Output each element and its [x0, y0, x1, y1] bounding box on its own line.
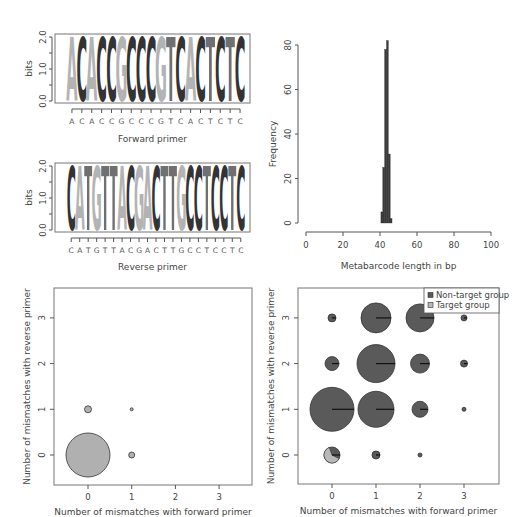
- sequence-base-label: C: [129, 117, 134, 126]
- x-axis-title: Metabarcode length in bp: [341, 261, 457, 271]
- sequence-base-label: G: [136, 246, 142, 255]
- sequence-base-label: T: [85, 246, 91, 255]
- bubble: [85, 406, 92, 413]
- y-axis-title: Number of mismatches with reverse primer: [22, 288, 32, 485]
- sequence-base-label: C: [178, 117, 183, 126]
- legend: Non-target groupTarget group: [424, 288, 509, 313]
- logo-letter-C: C: [235, 20, 246, 122]
- y-tick-label: 1: [37, 407, 47, 412]
- sequence-base-label: G: [118, 117, 124, 126]
- x-tick-label: 2: [417, 491, 422, 501]
- sequence-base-label: C: [153, 246, 158, 255]
- x-axis-title: Reverse primer: [118, 262, 187, 272]
- sequence-base-label: C: [109, 117, 114, 126]
- y-axis-title: Number of mismatches with reverse primer: [266, 287, 276, 484]
- pie-marker: [462, 407, 466, 411]
- logo-letter-C: C: [236, 149, 245, 251]
- sequence-base-label: C: [238, 246, 243, 255]
- sequence-base-label: T: [207, 117, 213, 126]
- pie-marker: [328, 314, 336, 322]
- bubble: [130, 408, 133, 411]
- pie-marker: [418, 453, 422, 457]
- figure: 0.01.02.0bitsAACCAACCCCGGCCCCCCGGTCCAACC…: [0, 0, 519, 517]
- y-axis-title: Frequency: [268, 120, 278, 167]
- y-tick-label: 0: [281, 452, 291, 457]
- y-tick-label: 2.0: [38, 159, 48, 173]
- logo-letter-C: C: [195, 20, 206, 122]
- x-tick-label: 3: [461, 491, 466, 501]
- sequence-base-label: G: [179, 246, 185, 255]
- histogram-bar: [388, 154, 390, 223]
- pie-marker: [461, 360, 468, 367]
- y-tick-label: 0: [37, 452, 47, 457]
- y-axis-title: bits: [24, 189, 34, 206]
- sequence-base-label: G: [158, 117, 164, 126]
- sequence-base-label: C: [221, 246, 226, 255]
- sequence-base-label: C: [128, 246, 133, 255]
- sequence-base-label: T: [227, 117, 233, 126]
- pie-marker: [325, 357, 339, 371]
- y-tick-label: 2: [37, 361, 47, 366]
- histogram-bar: [385, 49, 387, 223]
- sequence-base-label: C: [213, 246, 218, 255]
- legend-label: Non-target group: [436, 290, 509, 300]
- x-tick-label: 100: [483, 240, 499, 250]
- sequence-base-label: A: [120, 246, 126, 255]
- logo-letter-C: C: [219, 149, 228, 251]
- x-axis-title: Number of mismatches with forward primer: [300, 506, 498, 516]
- x-tick-label: 80: [449, 240, 460, 250]
- sequence-base-label: T: [170, 246, 176, 255]
- x-tick-label: 0: [329, 491, 334, 501]
- x-tick-label: 1: [129, 492, 134, 502]
- histogram-bar: [390, 219, 392, 223]
- sequence-base-label: C: [148, 117, 153, 126]
- sequence-base-label: C: [196, 246, 201, 255]
- pie-marker: [324, 447, 340, 463]
- forward-primer-logo: 0.01.02.0bitsAACCAACCCCGGCCCCCCGGTCCAACC…: [24, 20, 250, 144]
- x-tick-label: 1: [373, 491, 378, 501]
- sequence-base-label: C: [218, 117, 223, 126]
- x-tick-label: 60: [412, 240, 423, 250]
- mismatch-bubble-plot-target: 01230123Number of mismatches with forwar…: [22, 288, 252, 517]
- y-tick-label: 1: [281, 407, 291, 412]
- y-tick-label: 0: [283, 220, 293, 225]
- x-tick-label: 3: [216, 492, 221, 502]
- sequence-base-label: C: [237, 117, 242, 126]
- pie-marker: [357, 345, 395, 383]
- y-tick-label: 2.0: [38, 30, 48, 44]
- metabarcode-length-histogram: 020406080Frequency020406080100Metabarcod…: [268, 40, 499, 271]
- pie-marker: [358, 391, 394, 427]
- sequence-base-label: A: [77, 246, 83, 255]
- y-tick-label: 1.0: [38, 62, 48, 76]
- y-tick-label: 1.0: [38, 191, 48, 205]
- logo-letter-C: C: [151, 149, 160, 251]
- sequence-base-label: T: [102, 246, 108, 255]
- pie-marker: [411, 354, 430, 373]
- y-tick-label: 3: [37, 315, 47, 320]
- sequence-base-label: C: [69, 246, 74, 255]
- sequence-base-label: C: [187, 246, 192, 255]
- bubble: [66, 433, 110, 477]
- x-tick-label: 0: [85, 492, 90, 502]
- x-tick-label: 0: [303, 240, 308, 250]
- y-tick-label: 0.0: [38, 223, 48, 237]
- logo-letter-G: G: [92, 149, 102, 251]
- sequence-base-label: T: [204, 246, 210, 255]
- pie-marker: [461, 315, 467, 321]
- logo-letter-G: G: [155, 20, 167, 122]
- x-tick-label: 20: [338, 240, 349, 250]
- sequence-base-label: T: [110, 246, 116, 255]
- y-tick-label: 40: [283, 129, 293, 140]
- y-tick-label: 0.0: [38, 94, 48, 108]
- pie-marker: [310, 387, 354, 431]
- sequence-base-label: T: [229, 246, 235, 255]
- sequence-base-label: C: [99, 117, 104, 126]
- legend-label: Target group: [435, 300, 490, 310]
- sequence-base-label: A: [89, 117, 95, 126]
- sequence-base-label: C: [139, 117, 144, 126]
- x-axis-title: Number of mismatches with forward primer: [54, 507, 252, 517]
- x-tick-label: 2: [173, 492, 178, 502]
- sequence-base-label: A: [188, 117, 194, 126]
- sequence-base-label: T: [168, 117, 174, 126]
- pie-marker: [361, 303, 391, 333]
